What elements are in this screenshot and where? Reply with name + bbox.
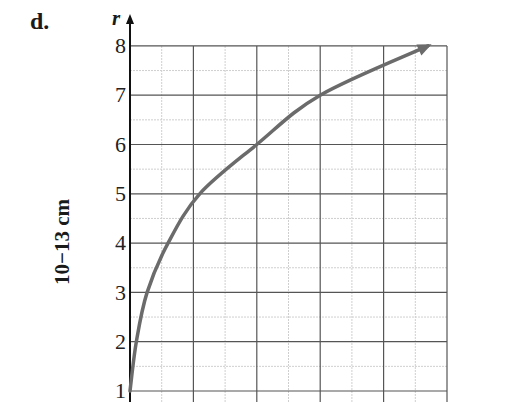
y-axis-arrow-icon: [126, 14, 134, 24]
plot-area: [0, 0, 516, 402]
